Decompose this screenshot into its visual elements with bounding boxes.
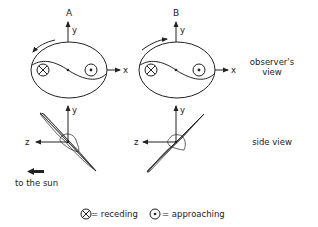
panel-b-observer-view: B y x <box>139 8 236 98</box>
y-axis-label: y <box>72 25 77 35</box>
z-axis-label: z <box>25 137 30 147</box>
panel-b-label: B <box>173 8 179 18</box>
center-dot <box>67 141 70 144</box>
legend-receding-icon <box>81 209 91 219</box>
rotation-arrow-ccw <box>33 40 55 52</box>
observer-view-label-line2: view <box>262 67 282 77</box>
observer-view-label-line1: observer's <box>250 57 295 67</box>
x-axis-label: x <box>231 65 236 75</box>
z-axis-label: z <box>134 137 139 147</box>
legend-approaching-label: = approaching <box>162 209 225 219</box>
y-axis-label: y <box>180 25 185 35</box>
panel-b-side-view: y z <box>134 105 204 172</box>
legend: = receding = approaching <box>81 209 225 219</box>
panel-a-side-view: y z <box>25 105 96 171</box>
x-axis-label: x <box>123 65 128 75</box>
panel-a-observer-view: A y x <box>31 8 128 98</box>
approaching-icon <box>85 64 97 76</box>
y-axis-label: y <box>72 105 77 115</box>
y-axis-label: y <box>180 105 185 115</box>
sun-arrow-icon <box>27 168 44 175</box>
diagram-canvas: A y x B y <box>0 0 318 227</box>
sun-direction: to the sun <box>15 0 58 188</box>
panel-a-label: A <box>66 8 73 18</box>
center-dot <box>67 69 70 72</box>
center-dot <box>175 69 178 72</box>
sun-direction-label: to the sun <box>15 178 58 188</box>
side-view-label: side view <box>252 137 292 147</box>
legend-approaching-icon <box>150 209 160 219</box>
receding-icon <box>37 64 49 76</box>
rotation-arrow-cw <box>142 39 167 50</box>
receding-icon <box>145 64 157 76</box>
approaching-icon <box>193 64 205 76</box>
center-dot <box>175 141 178 144</box>
legend-receding-label: = receding <box>91 209 138 219</box>
